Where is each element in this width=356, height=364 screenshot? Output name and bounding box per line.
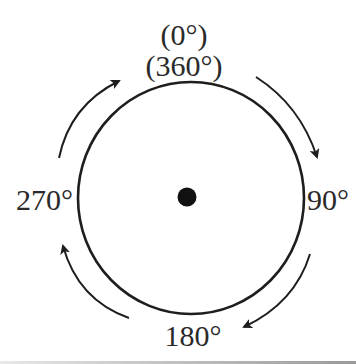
arrow-top-right-icon: [256, 77, 317, 157]
arrow-bottom-right-icon: [244, 254, 310, 327]
label-bottom-180: 180°: [165, 319, 222, 352]
label-top-0: (0°): [161, 18, 208, 52]
label-top-360: (360°): [146, 49, 223, 83]
label-right-90: 90°: [307, 183, 349, 216]
center-dot: [178, 188, 197, 207]
angle-circle-diagram: (0°) (360°) 90° 180° 270°: [0, 0, 356, 364]
label-left-270: 270°: [16, 183, 73, 216]
arrow-bottom-left-icon: [63, 246, 129, 318]
